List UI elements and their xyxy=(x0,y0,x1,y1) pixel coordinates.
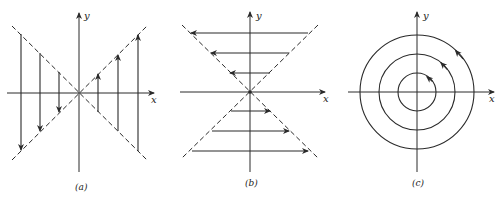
panel-b: y x (b) xyxy=(180,10,329,188)
x-axis-label: x xyxy=(323,93,329,104)
orbit-arrow-ccw xyxy=(456,51,464,60)
panel-a: y x (a) xyxy=(7,10,157,192)
y-axis-label: y xyxy=(422,10,429,21)
x-axis-label: x xyxy=(489,93,495,104)
y-axis-label: y xyxy=(83,10,90,21)
panel-c: y x (c) xyxy=(348,10,495,188)
orbit-arrow-ccw xyxy=(441,63,448,70)
panel-caption: (a) xyxy=(75,182,88,192)
origin-point xyxy=(248,90,252,94)
x-axis-label: x xyxy=(151,94,157,105)
panel-caption: (b) xyxy=(245,178,258,188)
phase-portraits-figure: y x (a) y x (b) y x xyxy=(0,0,502,199)
panel-caption: (c) xyxy=(412,178,425,188)
y-axis-label: y xyxy=(255,10,262,21)
